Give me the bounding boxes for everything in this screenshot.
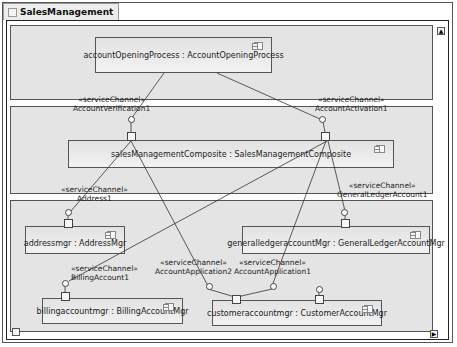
- scroll-corner-button[interactable]: [12, 328, 20, 336]
- lollipop-address[interactable]: [65, 209, 72, 216]
- channel-label-application1[interactable]: «serviceChannel» AccountApplication1: [234, 258, 311, 276]
- lollipop-account-verification[interactable]: [128, 116, 135, 123]
- lollipop-application1[interactable]: [270, 283, 277, 290]
- port-addressmgr[interactable]: [64, 219, 73, 228]
- channel-label-billing[interactable]: «serviceChannel» BillingAccount1: [71, 264, 138, 282]
- port-customer-left[interactable]: [232, 295, 241, 304]
- diagram-title: SalesManagement: [20, 7, 113, 17]
- lollipop-generalledger[interactable]: [341, 209, 348, 216]
- channel-label-address[interactable]: «serviceChannel» Address1: [61, 185, 128, 203]
- channel-label-application2[interactable]: «serviceChannel» AccountApplication2: [155, 258, 232, 276]
- scroll-right-button[interactable]: ▶: [430, 330, 438, 338]
- channel-label-account-activation[interactable]: «serviceChannel» AccountActivation1: [315, 95, 388, 113]
- scroll-up-button[interactable]: ▲: [437, 27, 445, 35]
- port-composite-right[interactable]: [321, 132, 330, 141]
- diagram-tab[interactable]: SalesManagement: [3, 3, 119, 20]
- lollipop-customer-right[interactable]: [316, 286, 323, 293]
- port-customer-right[interactable]: [315, 295, 324, 304]
- channel-label-account-verification[interactable]: «serviceChannel» AccountVerification1: [73, 95, 150, 113]
- lollipop-application2[interactable]: [206, 283, 213, 290]
- port-generalledger[interactable]: [341, 219, 350, 228]
- diagram-canvas[interactable]: accountOpeningProcess : AccountOpeningPr…: [6, 20, 449, 340]
- lollipop-account-activation[interactable]: [319, 116, 326, 123]
- channel-label-generalledger[interactable]: «serviceChannel» GeneralLedgerAccount1: [337, 181, 428, 199]
- diagram-icon: [8, 8, 17, 17]
- lollipop-billing[interactable]: [62, 280, 69, 287]
- port-composite-left[interactable]: [127, 132, 136, 141]
- port-billing[interactable]: [61, 292, 70, 301]
